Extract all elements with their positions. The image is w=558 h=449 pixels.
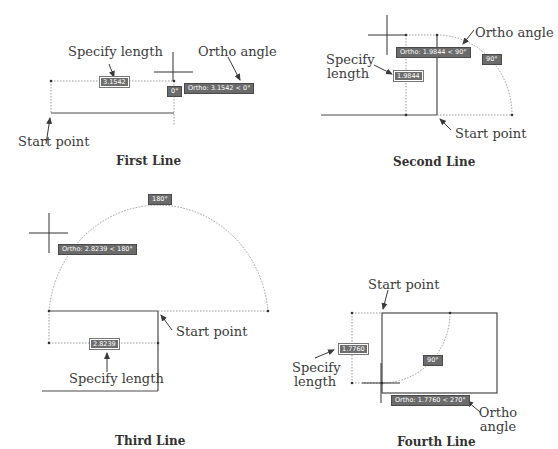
length-input[interactable]: 3.1542 [99, 76, 130, 88]
ortho-tooltip: Ortho: 3.1542 < 0° [184, 83, 254, 94]
specify-length-label-line1: Specify [292, 360, 338, 375]
ortho-tooltip: Ortho: 1.9844 < 90° [396, 47, 471, 58]
specify-length-label-line1: Specify [326, 52, 370, 67]
ortho-angle-label: Ortho angle [198, 44, 277, 59]
angle-badge: 0° [167, 86, 182, 97]
panel-caption: Second Line [393, 155, 475, 169]
length-value: 2.8239 [91, 340, 118, 348]
length-input[interactable]: 2.8239 [89, 338, 120, 350]
angle-badge: 90° [482, 54, 502, 65]
specify-length-label-line2: length [326, 66, 370, 81]
length-value: 1.9844 [395, 72, 422, 80]
start-point-label: Start point [18, 134, 89, 149]
length-input[interactable]: 1.9844 [393, 70, 424, 82]
panel-caption: Fourth Line [397, 435, 476, 449]
panel-caption: Third Line [115, 434, 185, 448]
panel-caption: First Line [116, 154, 181, 168]
third-line-drawing [29, 205, 269, 391]
start-point-label: Start point [176, 324, 247, 339]
ortho-tooltip: Ortho: 2.8239 < 180° [58, 244, 137, 255]
specify-length-label-line2: length [292, 374, 338, 389]
ortho-angle-label: Ortho angle [475, 25, 554, 40]
specify-length-label: Specify length [68, 44, 163, 59]
ortho-angle-label-line1: Ortho [478, 405, 518, 420]
length-value: 1.7760 [340, 345, 367, 353]
angle-badge: 90° [423, 355, 443, 366]
ortho-angle-label-line2: angle [478, 419, 518, 434]
ortho-tooltip: Ortho: 1.7760 < 270° [391, 395, 470, 406]
start-point-label: Start point [368, 277, 439, 292]
length-input[interactable]: 1.7760 [338, 343, 369, 355]
angle-badge: 180° [148, 194, 172, 205]
first-line-drawing [46, 52, 240, 144]
start-point-label: Start point [455, 126, 526, 141]
specify-length-label: Specify length [69, 371, 164, 386]
length-value: 3.1542 [101, 78, 128, 86]
